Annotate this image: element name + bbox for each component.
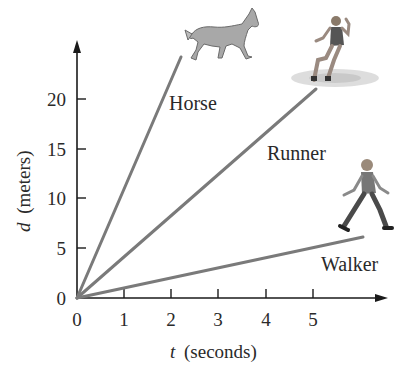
runner-icon xyxy=(291,16,379,87)
x-axis-title: t (seconds) xyxy=(170,341,257,363)
y-tick-label: 5 xyxy=(57,238,67,259)
x-tick-label: 1 xyxy=(119,309,129,330)
y-ticks xyxy=(77,99,86,248)
x-tick-label: 0 xyxy=(72,309,82,330)
horse-icon xyxy=(185,8,259,60)
x-axis-unit: (seconds) xyxy=(184,341,257,363)
series-line-runner xyxy=(77,89,316,298)
x-tick-label: 4 xyxy=(261,309,271,330)
series-line-horse xyxy=(77,57,181,298)
x-axis-arrow-icon xyxy=(375,294,388,302)
x-tick-label: 3 xyxy=(213,309,223,330)
x-tick-label: 2 xyxy=(166,309,176,330)
x-axis-variable: t xyxy=(170,341,176,362)
series-label-runner: Runner xyxy=(267,142,326,164)
x-tick-label: 5 xyxy=(308,309,318,330)
y-axis-unit: (meters) xyxy=(13,150,35,213)
y-axis-arrow-icon xyxy=(73,40,81,53)
walker-icon xyxy=(340,159,392,230)
y-axis-variable: d xyxy=(13,222,34,232)
y-axis-title: d (meters) xyxy=(13,150,35,232)
y-tick-label: 0 xyxy=(57,288,67,309)
y-tick-label: 10 xyxy=(47,188,66,209)
y-tick-label: 20 xyxy=(47,89,66,110)
y-tick-label: 15 xyxy=(47,139,66,160)
series-label-horse: Horse xyxy=(169,92,217,114)
distance-time-chart: 0 5 10 15 20 0 1 2 3 4 5 t (seconds) d (… xyxy=(0,0,401,375)
x-ticks xyxy=(124,289,313,298)
series-label-walker: Walker xyxy=(321,253,379,275)
